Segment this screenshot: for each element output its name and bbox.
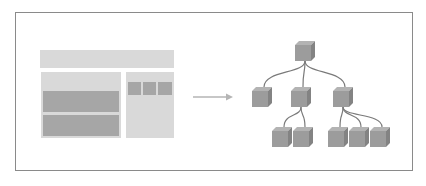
cube-icon [333, 87, 353, 107]
tree-nodes [252, 41, 390, 147]
cube-icon [370, 127, 390, 147]
connector-line [284, 107, 301, 127]
cube-icon [295, 41, 315, 61]
connector-line [301, 107, 305, 127]
cube-icon [252, 87, 272, 107]
connector-line [340, 107, 343, 127]
connector-line [343, 107, 361, 127]
transform-arrow-icon [193, 94, 233, 101]
cube-icon [293, 127, 313, 147]
hierarchy-tree [0, 0, 426, 186]
cube-icon [272, 127, 292, 147]
connector-line [264, 61, 305, 87]
cube-icon [349, 127, 369, 147]
cube-icon [328, 127, 348, 147]
connector-line [305, 61, 345, 87]
cube-icon [291, 87, 311, 107]
connector-line [343, 107, 382, 127]
tree-connectors [264, 61, 382, 127]
